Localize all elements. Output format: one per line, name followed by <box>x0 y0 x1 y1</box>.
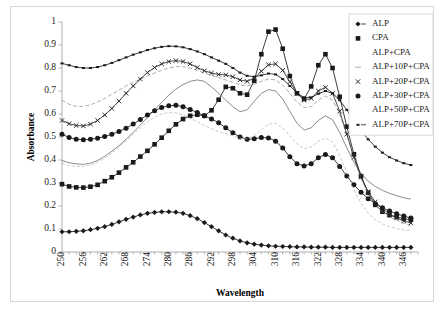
marker-diamond <box>88 227 93 232</box>
y-tick-label: 0.2 <box>44 200 56 210</box>
marker-cross <box>195 65 199 69</box>
marker-diamond <box>401 245 406 250</box>
marker-smalldash <box>395 159 398 161</box>
marker-square <box>259 52 264 57</box>
marker-cross <box>145 70 149 74</box>
marker-square <box>131 160 136 165</box>
marker-diamond <box>394 245 399 250</box>
marker-circle <box>202 113 207 118</box>
marker-circle <box>245 137 250 142</box>
marker-square <box>356 36 361 41</box>
marker-circle <box>323 152 328 157</box>
marker-smalldash <box>288 85 291 87</box>
marker-circle <box>252 136 257 141</box>
y-tick-label: 0.8 <box>44 62 56 72</box>
marker-circle <box>366 196 371 201</box>
marker-smalldash <box>153 47 156 49</box>
y-axis-ticks: 00.10.20.30.40.50.60.70.80.91 <box>44 16 62 256</box>
marker-diamond <box>387 245 392 250</box>
marker-square <box>117 170 122 175</box>
marker-smalldash <box>68 64 71 66</box>
marker-circle <box>359 190 364 195</box>
marker-square <box>67 184 72 189</box>
marker-diamond <box>358 245 363 250</box>
marker-diamond <box>245 240 250 245</box>
x-tick-label: 280 <box>163 252 173 267</box>
marker-circle <box>109 132 114 137</box>
marker-smalldash <box>246 75 249 77</box>
marker-cross <box>159 62 163 66</box>
marker-square <box>280 46 285 51</box>
marker-cross <box>103 113 107 117</box>
marker-circle <box>216 120 221 125</box>
marker-smalldash <box>381 152 384 154</box>
x-tick-label: 322 <box>313 252 323 267</box>
x-tick-label: 256 <box>78 252 88 267</box>
marker-diamond <box>116 219 121 224</box>
legend-item[interactable]: ALP+CPA <box>372 47 411 57</box>
marker-diamond <box>287 244 292 249</box>
marker-circle <box>337 164 342 169</box>
marker-circle <box>259 135 264 140</box>
marker-smalldash <box>89 67 92 69</box>
marker-diamond <box>280 244 285 249</box>
marker-cross <box>288 80 292 84</box>
legend-item-label: ALP+10P+CPA <box>372 61 430 71</box>
marker-diamond <box>351 245 356 250</box>
marker-smalldash <box>117 59 120 61</box>
legend-item-label: ALP+30P+CPA <box>372 90 430 100</box>
marker-square <box>74 185 79 190</box>
marker-circle <box>344 174 349 179</box>
marker-smalldash <box>210 56 213 58</box>
marker-square <box>174 122 179 127</box>
marker-diamond <box>109 222 114 227</box>
x-tick-label: 292 <box>206 252 216 267</box>
marker-square <box>159 135 164 140</box>
y-tick-label: 0.3 <box>44 177 56 187</box>
marker-smalldash <box>203 53 206 55</box>
marker-diamond <box>195 216 200 221</box>
marker-diamond <box>373 245 378 250</box>
legend-item[interactable]: ALP+50P+CPA <box>372 104 430 114</box>
marker-circle <box>356 94 361 99</box>
marker-square <box>266 29 271 34</box>
marker-circle <box>223 125 228 130</box>
marker-diamond <box>209 224 214 229</box>
marker-square <box>81 185 86 190</box>
marker-circle <box>380 205 385 210</box>
x-axis-ticks: 2502562622682742802862922983043103163223… <box>56 252 418 267</box>
marker-smalldash <box>189 48 192 50</box>
marker-smalldash <box>331 92 334 94</box>
marker-diamond <box>166 209 171 214</box>
marker-circle <box>145 112 150 117</box>
figure-container: 00.10.20.30.40.50.60.70.80.9125025626226… <box>0 0 447 322</box>
marker-diamond <box>188 213 193 218</box>
marker-diamond <box>81 228 86 233</box>
marker-smalldash <box>182 46 185 48</box>
marker-diamond <box>301 244 306 249</box>
marker-circle <box>166 103 171 108</box>
marker-square <box>152 142 157 147</box>
marker-diamond <box>337 245 342 250</box>
marker-circle <box>408 215 413 220</box>
series-line <box>62 212 411 248</box>
y-tick-label: 0.7 <box>44 85 56 95</box>
marker-smalldash <box>239 72 242 74</box>
marker-smalldash <box>96 66 99 68</box>
marker-cross <box>188 62 192 66</box>
marker-diamond <box>230 236 235 241</box>
series-alp[interactable] <box>59 209 413 250</box>
marker-smalldash <box>374 146 377 148</box>
marker-cross <box>117 99 121 103</box>
marker-circle <box>230 130 235 135</box>
marker-diamond <box>159 209 164 214</box>
marker-cross <box>323 85 327 89</box>
marker-diamond <box>266 243 271 248</box>
marker-circle <box>181 104 186 109</box>
marker-smalldash <box>409 164 412 166</box>
marker-cross <box>131 84 135 88</box>
marker-smalldash <box>103 64 106 66</box>
marker-circle <box>60 132 65 137</box>
marker-smalldash <box>132 54 135 56</box>
marker-square <box>95 183 100 188</box>
